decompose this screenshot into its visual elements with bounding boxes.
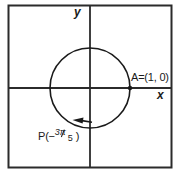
x-axis-label: x [157, 89, 164, 101]
y-axis-label: y [74, 6, 81, 18]
point-a-label: A=(1, 0) [131, 72, 169, 83]
point-p-prefix: P(− [38, 130, 55, 142]
figure-canvas [0, 0, 179, 178]
point-a-marker [128, 86, 132, 90]
point-p-denominator: 5 [68, 134, 73, 143]
point-p-suffix: ) [76, 130, 79, 142]
point-p-fraction: 3π5 [55, 130, 76, 142]
clockwise-direction-arrow-icon [73, 118, 84, 124]
point-p-label: P(−3π5) [38, 130, 79, 142]
unit-circle-figure: y x A=(1, 0) P(−3π5) [0, 0, 179, 178]
